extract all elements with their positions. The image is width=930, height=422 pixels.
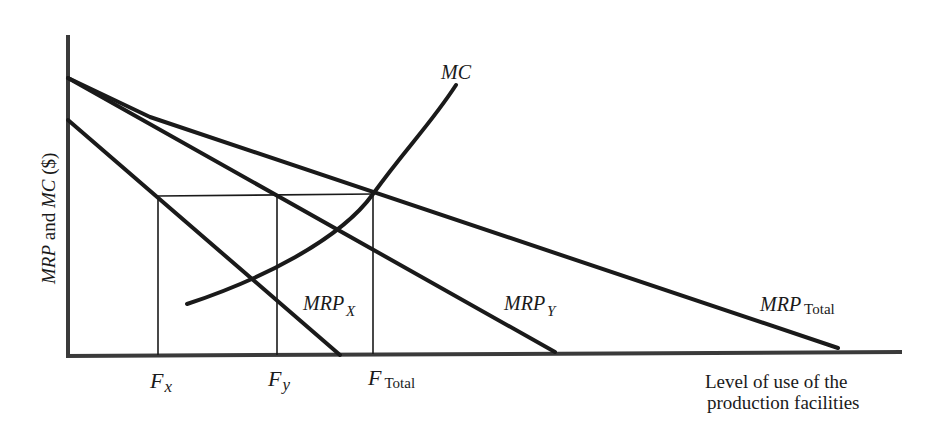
fx-tick-label: Fx <box>149 368 172 396</box>
mrp-x-label: MRPX <box>302 292 356 319</box>
mc-label: MC <box>440 61 472 83</box>
x-axis-title-line1: Level of use of the <box>705 371 847 392</box>
fy-main: F <box>267 366 282 391</box>
mrp-x-label-main: MRP <box>302 292 344 314</box>
x-axis <box>66 352 902 356</box>
fx-sub: x <box>163 377 172 396</box>
y-axis-title-mc: MC <box>38 179 59 209</box>
fy-tick-label: Fy <box>267 366 290 394</box>
mrp-total-curve <box>68 78 838 348</box>
diagram-canvas: MC MRPX MRPY MRPTotal Fx Fy FTotal Level… <box>0 0 930 422</box>
mrp-total-label: MRPTotal <box>759 293 835 317</box>
mrp-y-label-main: MRP <box>503 292 545 314</box>
x-axis-title-line2: production facilities <box>707 392 859 413</box>
ftotal-main: F <box>367 365 382 390</box>
horizontal-guide-line <box>158 194 373 196</box>
mrp-x-label-sub: X <box>345 303 356 319</box>
ftotal-tick-label: FTotal <box>367 365 415 391</box>
y-axis-title-and: and <box>38 208 59 245</box>
mrp-total-label-main: MRP <box>759 293 801 315</box>
fx-main: F <box>149 368 164 393</box>
ftotal-sub: Total <box>384 375 415 391</box>
mrp-y-label: MRPY <box>503 292 557 319</box>
y-axis-title-unit: ($) <box>38 153 60 180</box>
y-axis-title-mrp: MRP <box>38 245 59 285</box>
fy-sub: y <box>280 375 290 394</box>
mrp-y-label-sub: Y <box>547 303 557 319</box>
diagram-svg: MC MRPX MRPY MRPTotal Fx Fy FTotal Level… <box>0 0 930 422</box>
mrp-total-label-sub: Total <box>804 301 835 317</box>
y-axis-title: MRP and MC ($) <box>38 153 60 285</box>
